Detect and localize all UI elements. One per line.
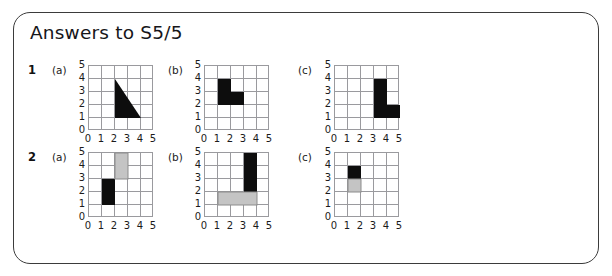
y-tick-label: 3 — [320, 173, 331, 183]
coordinate-grid — [88, 65, 153, 130]
shape-rect — [348, 179, 361, 192]
y-tick-label: 3 — [74, 86, 85, 96]
shape-rect — [387, 105, 400, 118]
question-row-1: 1 (a) 543210 012345 (b) 543210 012345 (c… — [0, 58, 612, 148]
y-tick-label: 4 — [190, 160, 201, 170]
x-tick-label: 3 — [238, 134, 249, 144]
question-1-part-b: (b) 543210 012345 — [168, 58, 288, 146]
plot-2a: 543210 012345 — [74, 145, 170, 231]
shape-rect — [218, 192, 257, 205]
shape-layer — [205, 153, 270, 218]
x-tick-label: 3 — [122, 134, 133, 144]
shape-layer — [89, 153, 154, 218]
shape-rect — [218, 79, 231, 105]
y-axis-labels: 543210 — [190, 58, 201, 137]
question-number: 1 — [28, 63, 36, 77]
page-title: Answers to S5/5 — [30, 22, 183, 43]
part-label: (c) — [298, 64, 312, 76]
y-tick-label: 2 — [190, 99, 201, 109]
x-tick-label: 0 — [83, 134, 94, 144]
part-label: (c) — [298, 151, 312, 163]
question-2-part-b: (b) 543210 012345 — [168, 145, 288, 233]
y-tick-label: 2 — [74, 99, 85, 109]
y-tick-label: 5 — [74, 147, 85, 157]
y-tick-label: 1 — [190, 112, 201, 122]
y-tick-label: 5 — [320, 60, 331, 70]
x-tick-label: 3 — [368, 221, 379, 231]
y-tick-label: 4 — [190, 73, 201, 83]
x-tick-label: 5 — [394, 134, 405, 144]
plot-1c: 543210 012345 — [320, 58, 416, 144]
x-tick-label: 4 — [251, 134, 262, 144]
x-tick-label: 1 — [342, 221, 353, 231]
y-tick-label: 5 — [74, 60, 85, 70]
x-tick-label: 0 — [329, 134, 340, 144]
y-tick-label: 2 — [320, 99, 331, 109]
shape-layer — [205, 66, 270, 131]
y-axis-labels: 543210 — [190, 145, 201, 224]
plot-1b: 543210 012345 — [190, 58, 286, 144]
shape-layer — [335, 66, 400, 131]
shape-rect — [115, 153, 128, 179]
y-tick-label: 5 — [190, 147, 201, 157]
x-tick-label: 2 — [355, 134, 366, 144]
x-tick-label: 0 — [83, 221, 94, 231]
plot-2c: 543210 012345 — [320, 145, 416, 231]
x-tick-label: 5 — [148, 221, 159, 231]
coordinate-grid — [204, 152, 269, 217]
y-tick-label: 4 — [320, 73, 331, 83]
x-tick-label: 4 — [381, 134, 392, 144]
part-label: (a) — [52, 151, 67, 163]
y-tick-label: 4 — [320, 160, 331, 170]
x-tick-label: 4 — [135, 221, 146, 231]
coordinate-grid — [334, 152, 399, 217]
x-tick-label: 4 — [251, 221, 262, 231]
y-tick-label: 3 — [320, 86, 331, 96]
y-axis-labels: 543210 — [74, 145, 85, 224]
plot-1a: 543210 012345 — [74, 58, 170, 144]
x-tick-label: 3 — [122, 221, 133, 231]
x-tick-label: 1 — [342, 134, 353, 144]
y-tick-label: 4 — [74, 160, 85, 170]
x-tick-label: 1 — [96, 221, 107, 231]
x-tick-label: 5 — [394, 221, 405, 231]
y-tick-label: 1 — [74, 199, 85, 209]
shape-rect — [374, 79, 387, 118]
shape-rect — [348, 166, 361, 179]
x-tick-label: 5 — [264, 221, 275, 231]
question-2-part-c: (c) 543210 012345 — [298, 145, 418, 233]
x-tick-label: 1 — [212, 221, 223, 231]
coordinate-grid — [334, 65, 399, 130]
x-tick-label: 3 — [238, 221, 249, 231]
shape-polygon — [115, 79, 141, 118]
x-tick-label: 2 — [109, 221, 120, 231]
y-tick-label: 5 — [320, 147, 331, 157]
x-axis-labels: 012345 — [190, 221, 280, 235]
x-tick-label: 2 — [225, 221, 236, 231]
x-tick-label: 3 — [368, 134, 379, 144]
x-tick-label: 4 — [381, 221, 392, 231]
y-tick-label: 1 — [190, 199, 201, 209]
y-tick-label: 2 — [190, 186, 201, 196]
question-row-2: 2 (a) 543210 012345 (b) 543210 012345 (c… — [0, 145, 612, 235]
shape-rect — [231, 92, 244, 105]
x-tick-label: 2 — [355, 221, 366, 231]
shape-layer — [335, 153, 400, 218]
y-tick-label: 2 — [74, 186, 85, 196]
x-tick-label: 0 — [199, 134, 210, 144]
y-axis-labels: 543210 — [320, 58, 331, 137]
part-label: (a) — [52, 64, 67, 76]
x-tick-label: 0 — [329, 221, 340, 231]
coordinate-grid — [204, 65, 269, 130]
x-tick-label: 1 — [212, 134, 223, 144]
x-tick-label: 2 — [225, 134, 236, 144]
shape-layer — [89, 66, 154, 131]
x-tick-label: 2 — [109, 134, 120, 144]
question-number: 2 — [28, 150, 36, 164]
y-axis-labels: 543210 — [74, 58, 85, 137]
part-label: (b) — [168, 64, 183, 76]
y-tick-label: 2 — [320, 186, 331, 196]
y-tick-label: 1 — [320, 199, 331, 209]
x-axis-labels: 012345 — [74, 221, 164, 235]
x-axis-labels: 012345 — [320, 221, 410, 235]
